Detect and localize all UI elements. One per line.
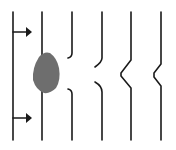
line-4-bottom — [95, 82, 102, 140]
line-5 — [121, 12, 131, 140]
line-3-bottom — [68, 89, 72, 140]
arrow-bottom-head-icon — [26, 113, 32, 123]
line-3-top — [68, 12, 72, 58]
obstacle-blob — [33, 53, 60, 94]
deflection-diagram — [0, 0, 176, 150]
line-6 — [154, 12, 161, 140]
arrow-top-head-icon — [26, 27, 32, 37]
line-4-top — [95, 12, 102, 67]
